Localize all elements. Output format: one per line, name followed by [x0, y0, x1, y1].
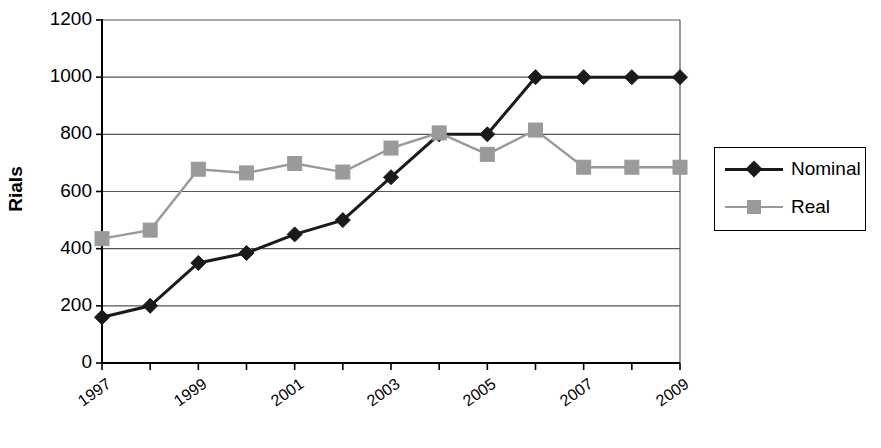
data-point-marker	[577, 160, 591, 174]
y-tick-label: 600	[60, 180, 92, 202]
legend-label: Real	[791, 196, 830, 218]
data-point-marker	[95, 232, 109, 246]
diamond-marker-icon	[725, 160, 783, 178]
y-tick-label: 400	[60, 237, 92, 259]
data-point-marker	[240, 166, 254, 180]
data-point-marker	[143, 223, 157, 237]
gridlines	[102, 20, 680, 363]
data-point-marker	[336, 165, 350, 179]
legend-item-nominal[interactable]: Nominal	[725, 158, 861, 180]
data-point-marker	[576, 70, 591, 85]
series-nominal	[95, 70, 688, 325]
data-point-marker	[288, 156, 302, 170]
data-point-marker	[287, 227, 302, 242]
series-line	[102, 77, 680, 317]
data-point-marker	[384, 141, 398, 155]
y-tick-label: 0	[81, 351, 92, 373]
data-point-marker	[673, 160, 687, 174]
legend-label: Nominal	[791, 158, 861, 180]
data-point-marker	[673, 70, 688, 85]
x-ticks	[102, 363, 680, 370]
y-axis-title: Rials	[5, 159, 27, 219]
data-point-marker	[624, 70, 639, 85]
chart-container: Rials 020040060080010001200 199719992001…	[0, 0, 881, 448]
square-marker-icon	[725, 198, 783, 216]
legend-item-real[interactable]: Real	[725, 196, 830, 218]
y-tick-label: 1200	[50, 8, 92, 30]
data-point-marker	[625, 160, 639, 174]
data-point-marker	[239, 245, 254, 260]
y-tick-label: 200	[60, 294, 92, 316]
data-point-marker	[529, 123, 543, 137]
legend: NominalReal	[714, 147, 866, 231]
data-point-marker	[480, 147, 494, 161]
data-point-marker	[95, 310, 110, 325]
y-tick-label: 800	[60, 122, 92, 144]
y-tick-label: 1000	[50, 65, 92, 87]
data-point-marker	[432, 126, 446, 140]
data-point-marker	[191, 162, 205, 176]
